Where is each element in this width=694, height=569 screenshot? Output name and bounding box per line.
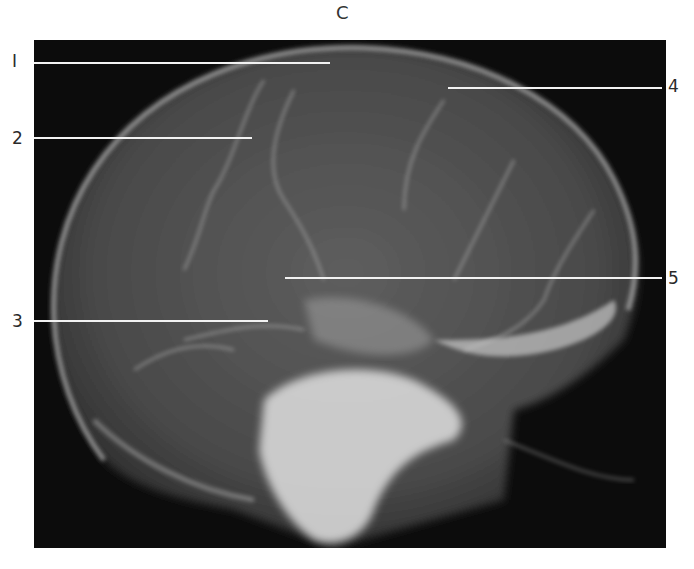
label-3: 3 (12, 313, 23, 330)
label-2: 2 (12, 130, 23, 147)
label-5: 5 (668, 270, 679, 287)
panel-letter: C (336, 2, 349, 23)
label-4: 4 (668, 78, 679, 95)
label-1: I (12, 53, 17, 70)
skull-xray-image (34, 40, 666, 548)
xray-graphic (34, 40, 666, 548)
